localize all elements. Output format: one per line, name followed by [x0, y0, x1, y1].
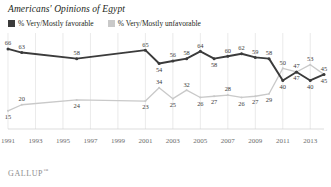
data-point-marker [213, 95, 215, 97]
x-tick-label: 2011 [276, 137, 290, 145]
data-point-marker [226, 55, 229, 58]
legend-item-unfavorable: % Very/Mostly unfavorable [108, 19, 201, 28]
data-point-marker [309, 64, 311, 66]
data-label: 64 [197, 42, 204, 49]
data-label: 54 [156, 66, 163, 73]
data-point-marker [7, 110, 9, 112]
line-chart-svg: 1520242334253226272826272950475345666358… [0, 30, 331, 158]
x-tick-label: 2005 [193, 137, 208, 145]
data-label: 28 [225, 85, 231, 92]
data-point-marker [213, 57, 216, 60]
data-label: 66 [5, 39, 11, 46]
source-label: GALLUP [8, 169, 43, 178]
data-label: 65 [142, 41, 148, 48]
data-point-marker [309, 79, 312, 82]
data-label: 60 [225, 47, 231, 54]
x-tick-label: 2009 [248, 137, 263, 145]
data-label: 58 [266, 49, 272, 56]
data-label: 58 [74, 49, 80, 56]
data-point-marker [75, 57, 78, 60]
data-point-marker [144, 49, 147, 52]
data-point-marker [144, 100, 146, 102]
data-label: 26 [197, 100, 203, 107]
data-point-marker [171, 60, 174, 63]
data-point-marker [268, 93, 270, 95]
data-label: 27 [211, 98, 218, 105]
legend-swatch-unfavorable [108, 20, 115, 27]
data-point-marker [199, 96, 201, 98]
data-point-marker [158, 87, 160, 89]
x-tick-label: 2001 [138, 137, 153, 145]
data-point-marker [20, 51, 23, 54]
data-point-marker [254, 95, 256, 97]
x-tick-label: 1993 [28, 137, 43, 145]
trademark-mark: ™ [43, 168, 49, 173]
data-point-marker [282, 67, 284, 69]
data-point-marker [7, 47, 10, 50]
data-label: 25 [170, 101, 176, 108]
legend-label-favorable: % Very/Mostly favorable [18, 19, 94, 28]
data-point-marker [172, 98, 174, 100]
data-label: 58 [183, 49, 189, 56]
data-label: 45 [321, 77, 327, 84]
data-point-marker [199, 50, 202, 53]
data-point-marker [241, 96, 243, 98]
data-label: 23 [142, 103, 148, 110]
data-label: 29 [266, 96, 272, 103]
data-point-marker [268, 57, 271, 60]
x-tick-label: 2013 [303, 137, 318, 145]
data-label: 32 [183, 81, 189, 88]
data-labels: 1520242334253226272826272950475345666358… [5, 39, 327, 120]
source-attribution: GALLUP™ [8, 168, 49, 178]
x-tick-label: 1999 [111, 137, 126, 145]
data-label: 63 [19, 43, 25, 50]
data-label: 50 [280, 59, 286, 66]
chart-legend: % Very/Mostly favorable % Very/Mostly un… [8, 19, 201, 28]
legend-swatch-favorable [8, 20, 15, 27]
x-tick-label: 1995 [56, 137, 71, 145]
data-point-marker [240, 52, 243, 55]
chart-plot-area: 1520242334253226272826272950475345666358… [0, 30, 331, 158]
data-point-marker [21, 104, 23, 106]
data-label: 34 [156, 78, 163, 85]
data-label: 47 [293, 74, 300, 81]
page-title: Americans' Opinions of Egypt [8, 4, 125, 14]
data-label: 45 [321, 65, 327, 72]
x-axis-tick-labels: 1991199319951997199920012003200520072009… [1, 137, 318, 145]
data-series [7, 47, 326, 111]
data-point-marker [323, 73, 326, 76]
data-label: 40 [280, 83, 286, 90]
x-tick-label: 1991 [1, 137, 16, 145]
data-point-marker [281, 79, 284, 82]
data-label: 20 [19, 95, 25, 102]
data-label: 24 [74, 102, 81, 109]
x-tick-label: 1997 [83, 137, 98, 145]
data-label: 58 [211, 61, 217, 68]
x-tick-label: 2003 [166, 137, 181, 145]
legend-label-unfavorable: % Very/Mostly unfavorable [118, 19, 201, 28]
data-label: 47 [293, 62, 300, 69]
data-label: 62 [238, 44, 244, 51]
data-label: 56 [170, 51, 176, 58]
data-label: 40 [307, 83, 313, 90]
data-point-marker [186, 89, 188, 91]
data-point-marker [185, 57, 188, 60]
data-label: 53 [307, 55, 313, 62]
data-point-marker [295, 70, 298, 73]
data-label: 27 [252, 98, 259, 105]
series-line [8, 49, 324, 81]
data-point-marker [254, 56, 257, 59]
data-point-marker [227, 94, 229, 96]
x-tick-label: 2007 [221, 137, 236, 145]
data-point-marker [76, 99, 78, 101]
data-label: 15 [5, 113, 11, 120]
data-label: 59 [252, 48, 258, 55]
data-point-marker [158, 62, 161, 65]
legend-item-favorable: % Very/Mostly favorable [8, 19, 94, 28]
data-label: 26 [238, 100, 244, 107]
gallup-chart-figure: Americans' Opinions of Egypt % Very/Most… [0, 0, 331, 187]
